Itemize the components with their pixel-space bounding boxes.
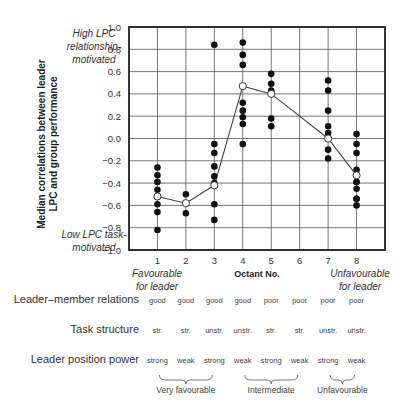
annotation-high-lpc: High LPC relationship- motivated <box>54 27 134 66</box>
group-brace <box>330 375 354 384</box>
x-tick-label: 4 <box>240 255 245 266</box>
cell-power-octant-4: weak <box>229 356 257 365</box>
median-point <box>353 172 360 179</box>
row-label-task: Task structure <box>71 323 139 335</box>
y-tick-label: 0.4 <box>108 88 121 99</box>
y-tick-label: −0.2 <box>102 155 121 166</box>
data-point <box>211 173 218 180</box>
cell-task-octant-4: unstr. <box>229 326 257 335</box>
data-point <box>325 146 332 153</box>
data-point <box>211 141 218 148</box>
data-point <box>154 172 161 179</box>
cell-power-octant-7: strong <box>314 356 342 365</box>
median-point <box>182 200 189 207</box>
data-point <box>353 202 360 209</box>
data-point <box>154 179 161 186</box>
data-point <box>154 186 161 193</box>
data-point <box>325 107 332 114</box>
cell-task-octant-8: unstr. <box>343 326 371 335</box>
data-point <box>211 201 218 208</box>
cell-task-octant-7: unstr. <box>314 326 342 335</box>
annotation-unfavourable: Unfavourable for leader <box>320 267 400 293</box>
y-tick-label: −0.4 <box>102 178 121 189</box>
data-point <box>325 155 332 162</box>
cell-relations-octant-3: good <box>200 296 228 305</box>
cell-power-octant-6: weak <box>286 356 314 365</box>
data-point <box>211 150 218 157</box>
median-point <box>154 193 161 200</box>
group-brace <box>245 375 298 384</box>
group-label: Unfavourable <box>317 385 368 395</box>
x-tick-label: 6 <box>297 255 302 266</box>
data-point <box>239 141 246 148</box>
cell-relations-octant-6: poor <box>286 296 314 305</box>
data-point <box>154 209 161 216</box>
cell-relations-octant-4: good <box>229 296 257 305</box>
y-tick-label: 0.0 <box>108 133 121 144</box>
y-tick-label: 0.2 <box>108 111 121 122</box>
y-tick-label: 0.6 <box>108 66 121 77</box>
data-point <box>239 114 246 121</box>
cell-task-octant-5: str. <box>257 326 285 335</box>
cell-power-octant-5: strong <box>257 356 285 365</box>
y-tick-label: −0.6 <box>102 200 121 211</box>
x-tick-label: 1 <box>155 255 160 266</box>
data-point <box>268 81 275 88</box>
data-point <box>211 163 218 170</box>
cell-task-octant-6: str. <box>286 326 314 335</box>
x-tick-label: 3 <box>212 255 217 266</box>
y-axis-label-line1: Median correlations between leader <box>36 44 48 244</box>
data-point <box>211 42 218 49</box>
cell-task-octant-1: str. <box>143 326 171 335</box>
data-point <box>268 71 275 78</box>
data-point <box>239 52 246 59</box>
x-tick-label: 2 <box>183 255 188 266</box>
x-tick-label: 8 <box>354 255 359 266</box>
cell-task-octant-2: str. <box>172 326 200 335</box>
data-point <box>353 179 360 186</box>
cell-power-octant-1: strong <box>143 356 171 365</box>
data-point <box>353 185 360 192</box>
cell-relations-octant-5: poor <box>257 296 285 305</box>
median-point <box>239 82 246 89</box>
data-point <box>211 217 218 224</box>
data-point <box>183 210 190 217</box>
data-point <box>268 115 275 122</box>
x-tick-label: 5 <box>269 255 274 266</box>
cell-relations-octant-1: good <box>143 296 171 305</box>
group-label: Intermediate <box>248 385 295 395</box>
data-point <box>154 164 161 171</box>
cell-relations-octant-7: poor <box>314 296 342 305</box>
row-label-relations: Leader–member relations <box>14 293 139 305</box>
cell-power-octant-3: strong <box>200 356 228 365</box>
median-point <box>325 135 332 142</box>
data-point <box>353 141 360 148</box>
cell-relations-octant-2: good <box>172 296 200 305</box>
group-brace <box>159 375 212 384</box>
y-axis-label: Median correlations between leader LPC a… <box>36 44 60 244</box>
x-tick-label: 7 <box>325 255 330 266</box>
x-axis-label: Octant No. <box>234 269 280 279</box>
y-axis-label-line2: LPC and group performance <box>48 44 60 244</box>
cell-relations-octant-8: poor <box>343 296 371 305</box>
data-point <box>353 195 360 202</box>
data-point <box>353 131 360 138</box>
cell-power-octant-8: weak <box>343 356 371 365</box>
annotation-low-lpc: Low LPC task- motivated <box>44 228 144 254</box>
data-point <box>325 77 332 84</box>
data-point <box>325 123 332 130</box>
cell-task-octant-3: unstr. <box>200 326 228 335</box>
annotation-favourable: Favourable for leader <box>117 267 197 293</box>
row-label-power: Leader position power <box>31 353 139 365</box>
data-point <box>239 100 246 107</box>
group-label: Very favourable <box>156 385 215 395</box>
data-point <box>154 227 161 234</box>
median-point <box>268 90 275 97</box>
data-point <box>239 62 246 69</box>
data-point <box>239 107 246 114</box>
data-point <box>239 121 246 128</box>
data-point <box>239 39 246 46</box>
data-point <box>154 201 161 208</box>
data-point <box>268 123 275 130</box>
cell-power-octant-2: weak <box>172 356 200 365</box>
